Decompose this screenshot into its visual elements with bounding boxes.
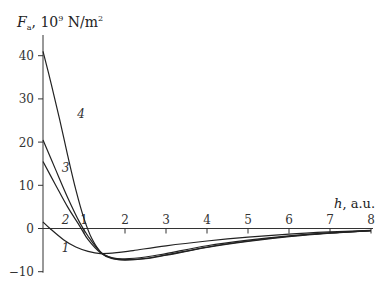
curve-1 [43,222,371,254]
x-tick-label: 2 [121,213,129,227]
curve-2 [43,162,371,259]
y-tick-label: 20 [19,136,34,150]
curve-label-2: 2 [61,213,70,227]
y-tick-label: 40 [19,49,34,63]
x-tick-label: 3 [162,213,170,227]
y-tick-label: 10 [19,179,34,193]
y-tick-label: 0 [26,222,34,236]
curve-labels: 1234 [61,107,85,255]
curve-label-1: 1 [62,241,70,255]
curve-3 [43,140,371,260]
x-axis-label: h, a.u. [334,196,375,211]
x-tick-label: 8 [367,213,375,227]
chart-plot: −1001020304012345678 1234 [0,0,392,289]
y-tick-label: −10 [9,265,34,279]
y-tick-label: 30 [19,92,34,106]
x-tick-label: 7 [326,213,334,227]
x-tick-label: 6 [285,213,293,227]
curve-label-3: 3 [62,161,70,175]
curve-label-4: 4 [76,107,85,121]
x-tick-label: 5 [244,213,252,227]
x-tick-label: 4 [203,213,211,227]
y-axis-label: Fa, 109 N/m2 [17,14,103,32]
